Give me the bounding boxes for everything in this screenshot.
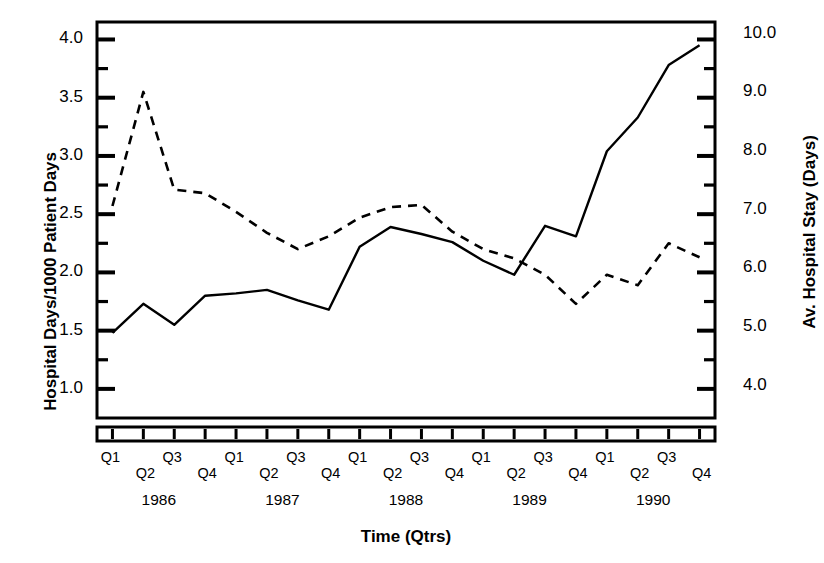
y-tick-label-left: 4.0 [27, 28, 83, 48]
x-tick-label-quarter: Q3 [157, 449, 187, 465]
y-tick-label-left: 1.0 [27, 378, 83, 398]
x-tick-label-quarter: Q1 [590, 449, 620, 465]
plot-frame [97, 22, 715, 418]
x-tick-label-quarter: Q2 [130, 465, 160, 481]
y-tick-label-right: 9.0 [743, 81, 803, 101]
x-tick-label-quarter: Q1 [466, 449, 496, 465]
x-tick-label-quarter: Q3 [652, 449, 682, 465]
x-tick-label-quarter: Q3 [281, 449, 311, 465]
chart-container: Hospital Days/1000 Patient Days Av. Hosp… [0, 0, 824, 563]
x-axis-year-label: 1987 [252, 491, 312, 509]
x-tick-label-quarter: Q3 [528, 449, 558, 465]
y-tick-label-right: 4.0 [743, 375, 803, 395]
x-axis-year-label: 1986 [129, 491, 189, 509]
y-tick-label-right: 7.0 [743, 199, 803, 219]
series-line-2 [112, 92, 699, 304]
x-tick-label-quarter: Q2 [625, 465, 655, 481]
x-axis-year-label: 1989 [500, 491, 560, 509]
x-tick-label-quarter: Q4 [316, 465, 346, 481]
x-axis-tick-band [97, 427, 715, 441]
y-tick-label-right: 5.0 [743, 316, 803, 336]
x-tick-label-quarter: Q4 [563, 465, 593, 481]
y-tick-label-left: 1.5 [27, 320, 83, 340]
y-tick-label-left: 3.0 [27, 145, 83, 165]
y-tick-label-right: 8.0 [743, 140, 803, 160]
y-tick-label-left: 2.0 [27, 261, 83, 281]
x-tick-label-quarter: Q4 [687, 465, 717, 481]
x-axis-year-label: 1990 [623, 491, 683, 509]
y-tick-label-right: 6.0 [743, 257, 803, 277]
x-tick-label-quarter: Q1 [95, 449, 125, 465]
y-tick-label-left: 3.5 [27, 87, 83, 107]
x-tick-label-quarter: Q4 [192, 465, 222, 481]
y-tick-label-right: 10.0 [743, 23, 803, 43]
y-tick-label-left: 2.5 [27, 203, 83, 223]
x-tick-label-quarter: Q4 [439, 465, 469, 481]
x-tick-label-quarter: Q2 [378, 465, 408, 481]
x-tick-label-quarter: Q2 [501, 465, 531, 481]
x-tick-label-quarter: Q1 [219, 449, 249, 465]
series-line-1 [112, 45, 699, 333]
x-tick-label-quarter: Q2 [254, 465, 284, 481]
x-tick-label-quarter: Q3 [404, 449, 434, 465]
x-axis-year-label: 1988 [376, 491, 436, 509]
x-tick-label-quarter: Q1 [343, 449, 373, 465]
